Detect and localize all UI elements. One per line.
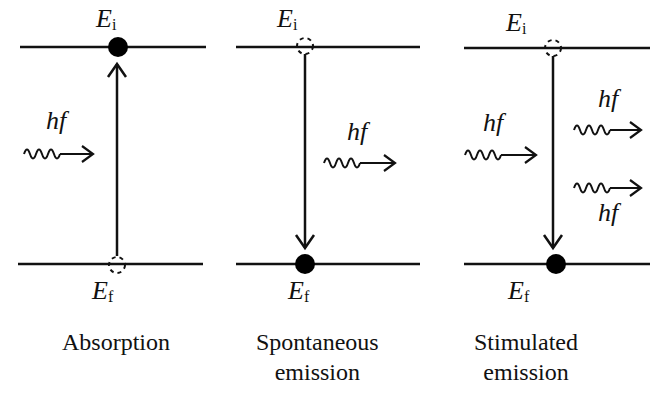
photon-energy-label: hf [347,117,367,147]
outgoing-photon-icon [574,122,641,138]
lower-level-label: Ef [508,276,529,306]
upper-level-label: Ei [506,8,526,38]
upper-level-label: Ei [96,4,116,34]
photon-energy-label: hf [483,108,503,138]
caption-line: Spontaneous [256,327,379,357]
upper-level-label: Ei [277,4,297,34]
panel-spontaneous-emission [236,38,420,274]
incoming-photon-icon [24,146,93,162]
caption-line: Stimulated [474,327,578,357]
panel-stimulated-emission [464,40,650,274]
photon-energy-label: hf [46,106,66,136]
lower-level-label: Ef [288,276,309,306]
caption-stimulated-emission: Stimulated emission [474,327,578,387]
outgoing-photon-icon [324,155,395,171]
electron-filled-icon [108,37,128,57]
outgoing-photon-icon [574,180,641,196]
photon-energy-label: hf [598,84,618,114]
photon-energy-label: hf [598,198,618,228]
caption-line: emission [474,357,578,387]
electron-filled-icon [295,254,315,274]
caption-spontaneous-emission: Spontaneous emission [256,327,379,387]
caption-line: emission [256,357,379,387]
lower-level-label: Ef [92,276,113,306]
caption-absorption: Absorption [62,327,170,357]
panel-absorption [18,37,206,273]
incoming-photon-icon [465,147,536,163]
electron-filled-icon [546,254,566,274]
